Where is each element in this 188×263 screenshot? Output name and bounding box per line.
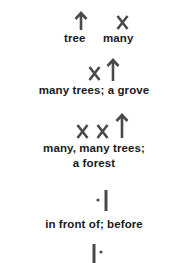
dot-icon xyxy=(96,198,100,202)
label-forest-line2: a forest xyxy=(0,157,188,169)
many-x-icon xyxy=(96,124,109,139)
tree-arrow-icon xyxy=(106,58,120,82)
label-tree: tree xyxy=(64,32,86,44)
many-x-icon xyxy=(88,66,101,81)
label-before: in front of; before xyxy=(0,218,188,230)
dot-icon xyxy=(99,250,103,254)
tree-arrow-icon xyxy=(115,113,129,139)
tree-arrow-icon xyxy=(74,11,88,31)
bar-icon xyxy=(104,190,108,211)
label-grove: many trees; a grove xyxy=(0,84,188,96)
many-x-icon xyxy=(116,15,129,30)
label-many: many xyxy=(103,32,133,44)
many-x-icon xyxy=(76,124,89,139)
bar-icon xyxy=(92,244,96,263)
label-forest-line1: many, many trees; xyxy=(0,142,188,154)
